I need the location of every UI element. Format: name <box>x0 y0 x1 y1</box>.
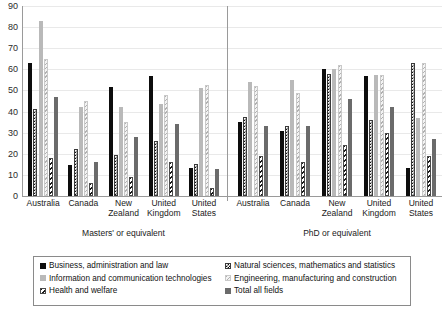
y-axis-tick-label: 10 <box>0 170 18 179</box>
bar-group <box>144 6 184 196</box>
category-names-masters: AustraliaCanadaNew ZealandUnited Kingdom… <box>23 198 224 218</box>
bar-total <box>94 162 98 196</box>
bar-business <box>149 76 153 196</box>
bar-health <box>89 183 93 196</box>
legend-item: Health and welfare <box>40 286 219 295</box>
bar-business <box>28 63 32 196</box>
category-names-phd: AustraliaCanadaNew ZealandUnited Kingdom… <box>232 198 442 218</box>
bar-engineering <box>338 65 342 196</box>
bar-business <box>189 168 193 197</box>
legend-swatch-icon <box>40 288 46 294</box>
legend-columns: Business, administration and lawInformat… <box>40 261 404 295</box>
bar-total <box>134 137 138 196</box>
bar-engineering <box>44 59 48 196</box>
bar-group <box>358 6 400 196</box>
legend-item: Information and communication technologi… <box>40 274 219 283</box>
bar-total <box>348 99 352 196</box>
bar-group <box>23 6 63 196</box>
bar-ict <box>39 21 43 196</box>
bar-natural_sciences <box>285 126 289 196</box>
bar-business <box>364 76 368 196</box>
bar-health <box>49 158 53 196</box>
legend-label: Information and communication technologi… <box>49 274 211 283</box>
category-label: United Kingdom <box>144 198 184 218</box>
legend-item: Natural sciences, mathematics and statis… <box>225 261 404 270</box>
legend-column-1: Business, administration and lawInformat… <box>40 261 219 295</box>
bar-health <box>343 145 347 196</box>
bar-total <box>215 169 219 196</box>
category-label: New Zealand <box>316 198 358 218</box>
category-label: Canada <box>63 198 103 218</box>
bar-ict <box>290 80 294 196</box>
bar-business <box>406 168 410 197</box>
bar-total <box>54 97 58 196</box>
bar-engineering <box>422 63 426 196</box>
category-axis: AustraliaCanadaNew ZealandUnited Kingdom… <box>0 198 444 244</box>
bar-group <box>63 6 103 196</box>
bar-group <box>400 6 442 196</box>
bar-natural_sciences <box>243 117 247 196</box>
bar-health <box>210 188 214 196</box>
panel-separator <box>224 6 232 196</box>
category-label: United Kingdom <box>358 198 400 218</box>
legend-swatch-icon <box>225 275 231 281</box>
panel-label-phd: PhD or equivalent <box>232 228 442 238</box>
bar-ict <box>248 82 252 196</box>
chart-legend: Business, administration and lawInformat… <box>33 256 411 306</box>
bar-natural_sciences <box>327 74 331 196</box>
bar-ict <box>79 107 83 196</box>
category-label: Australia <box>232 198 274 218</box>
bar-engineering <box>84 101 88 196</box>
bar-natural_sciences <box>194 164 198 196</box>
bar-business <box>280 131 284 196</box>
panel-phd <box>232 6 442 196</box>
bar-natural_sciences <box>411 63 415 196</box>
bar-engineering <box>254 86 258 196</box>
bar-health <box>385 133 389 196</box>
bar-group <box>274 6 316 196</box>
bar-group <box>184 6 224 196</box>
bar-total <box>306 126 310 196</box>
legend-swatch-icon <box>40 275 46 281</box>
bar-ict <box>332 69 336 196</box>
y-axis-tick-label: 90 <box>0 2 18 11</box>
category-label: Canada <box>274 198 316 218</box>
separator-line <box>227 6 228 201</box>
plot-area: 9080706050403020100 <box>0 0 444 205</box>
legend-swatch-icon <box>40 263 46 269</box>
bar-total <box>264 126 268 196</box>
bar-health <box>129 177 133 196</box>
y-axis-tick-label: 80 <box>0 23 18 32</box>
category-label: United States <box>184 198 224 218</box>
bar-ict <box>416 118 420 196</box>
panel-masters <box>23 6 224 196</box>
panel-label-masters: Masters' or equivalent <box>23 228 224 238</box>
bar-ict <box>159 104 163 196</box>
bar-health <box>259 156 263 196</box>
bar-group <box>316 6 358 196</box>
bar-natural_sciences <box>369 120 373 196</box>
bar-ict <box>119 107 123 196</box>
bar-total <box>390 107 394 196</box>
bar-ict <box>374 75 378 196</box>
bar-natural_sciences <box>33 109 37 196</box>
legend-label: Total all fields <box>234 286 283 295</box>
chart-figure: 9080706050403020100 AustraliaCanadaNew Z… <box>0 0 444 318</box>
legend-swatch-icon <box>225 263 231 269</box>
bar-total <box>432 139 436 196</box>
legend-label: Health and welfare <box>49 286 117 295</box>
y-axis-tick-label: 50 <box>0 86 18 95</box>
bar-natural_sciences <box>74 149 78 197</box>
legend-label: Business, administration and law <box>49 261 168 270</box>
y-axis-tick-label: 40 <box>0 107 18 116</box>
legend-column-2: Natural sciences, mathematics and statis… <box>225 261 404 295</box>
bar-engineering <box>124 122 128 196</box>
y-axis-tick-label: 60 <box>0 65 18 74</box>
bar-natural_sciences <box>114 155 118 196</box>
bar-engineering <box>296 93 300 196</box>
bar-natural_sciences <box>154 141 158 196</box>
bar-business <box>109 87 113 196</box>
category-panel-masters: AustraliaCanadaNew ZealandUnited Kingdom… <box>23 198 224 244</box>
category-panel-phd: AustraliaCanadaNew ZealandUnited Kingdom… <box>232 198 442 244</box>
bar-engineering <box>380 75 384 196</box>
